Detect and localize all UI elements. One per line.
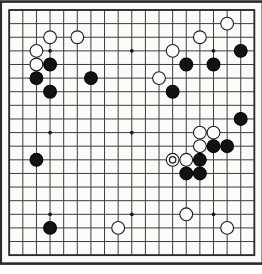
white-stone[interactable] [221,222,234,235]
white-stone-disc[interactable] [193,140,206,153]
black-stone-disc[interactable] [234,44,247,57]
black-stone[interactable] [193,153,206,166]
white-stone[interactable] [193,31,206,44]
white-stone-disc[interactable] [112,222,125,235]
black-stone-disc[interactable] [85,72,98,85]
white-stone[interactable] [30,58,43,71]
black-stone[interactable] [180,58,193,71]
white-stone[interactable] [166,153,179,166]
white-stone-disc[interactable] [221,222,234,235]
white-stone-disc[interactable] [71,31,84,44]
white-stone-disc[interactable] [180,208,193,221]
black-stone-disc[interactable] [166,85,179,98]
white-stone[interactable] [30,44,43,57]
star-point [48,212,52,216]
star-point [130,49,134,53]
white-stone-disc[interactable] [30,44,43,57]
black-stone[interactable] [44,85,57,98]
black-stone[interactable] [193,167,206,180]
go-board-screen [0,0,262,274]
white-stone[interactable] [112,222,125,235]
white-stone[interactable] [193,126,206,139]
white-stone[interactable] [153,72,166,85]
black-stone[interactable] [166,85,179,98]
white-stone[interactable] [180,208,193,221]
black-stone-disc[interactable] [207,58,220,71]
star-point [130,212,134,216]
black-stone[interactable] [221,140,234,153]
white-stone[interactable] [221,17,234,30]
black-stone-disc[interactable] [193,153,206,166]
white-stone[interactable] [71,31,84,44]
white-stone[interactable] [180,153,193,166]
black-stone-disc[interactable] [193,167,206,180]
black-stone-disc[interactable] [44,58,57,71]
white-stone-disc[interactable] [180,153,193,166]
black-stone[interactable] [44,58,57,71]
black-stone[interactable] [234,44,247,57]
black-stone[interactable] [30,153,43,166]
black-stone-disc[interactable] [30,72,43,85]
star-point [48,131,52,135]
black-stone-disc[interactable] [180,167,193,180]
white-stone-disc[interactable] [166,153,179,166]
black-stone[interactable] [30,72,43,85]
white-stone-disc[interactable] [221,17,234,30]
black-stone-disc[interactable] [180,58,193,71]
black-stone-disc[interactable] [207,140,220,153]
star-point [48,49,52,53]
white-stone[interactable] [166,44,179,57]
black-stone[interactable] [180,167,193,180]
white-stone[interactable] [193,140,206,153]
white-stone[interactable] [44,31,57,44]
go-board[interactable] [0,0,262,274]
white-stone-disc[interactable] [153,72,166,85]
black-stone[interactable] [207,58,220,71]
black-stone[interactable] [44,222,57,235]
white-stone[interactable] [207,126,220,139]
black-stone[interactable] [207,140,220,153]
black-stone-disc[interactable] [30,153,43,166]
star-point [212,212,216,216]
black-stone[interactable] [234,113,247,126]
star-point [212,49,216,53]
white-stone-disc[interactable] [30,58,43,71]
star-point [130,131,134,135]
black-stone-disc[interactable] [44,222,57,235]
white-stone-disc[interactable] [44,31,57,44]
white-stone-disc[interactable] [166,44,179,57]
black-stone-disc[interactable] [221,140,234,153]
white-stone-disc[interactable] [193,126,206,139]
go-board-canvas[interactable] [0,0,262,274]
white-stone-disc[interactable] [193,31,206,44]
black-stone[interactable] [85,72,98,85]
white-stone-disc[interactable] [207,126,220,139]
black-stone-disc[interactable] [44,85,57,98]
black-stone-disc[interactable] [234,113,247,126]
